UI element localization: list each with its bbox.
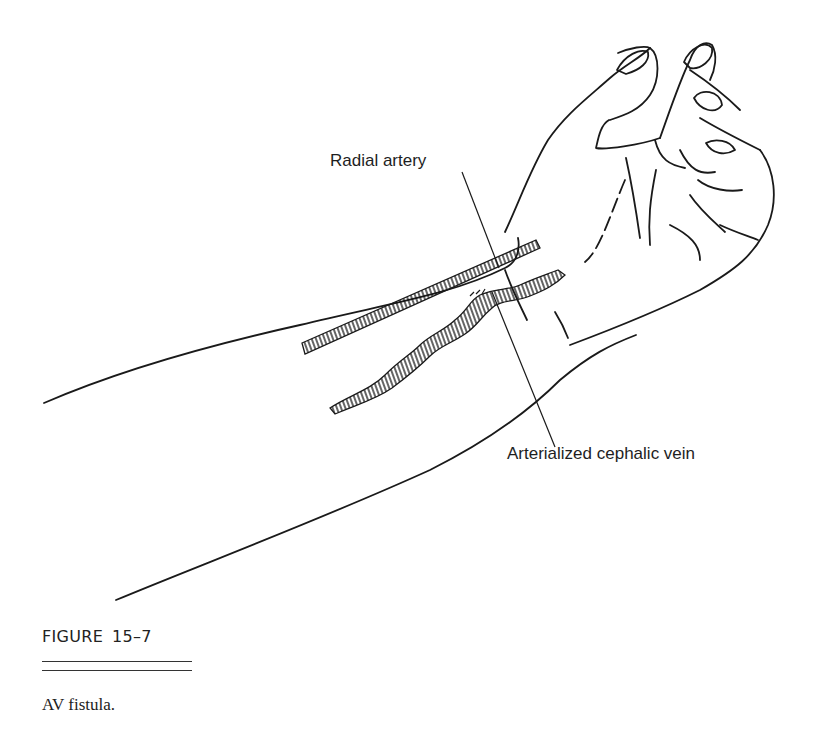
- figure-number-value: 15–7: [112, 627, 152, 646]
- caption-rule-bottom: [42, 670, 192, 671]
- palm-outline: [570, 150, 774, 345]
- fingernail-3: [706, 140, 735, 153]
- cephalic-vein-vessel: [330, 270, 565, 414]
- arterialized-cephalic-vein-label: Arterialized cephalic vein: [507, 444, 695, 464]
- caption-rule-top: [42, 661, 192, 662]
- thumb-outline: [610, 47, 658, 120]
- figure-number: FIGURE15–7: [42, 627, 152, 646]
- thumb-web: [596, 120, 660, 148]
- vein-leader: [492, 292, 555, 447]
- index-finger: [660, 43, 715, 138]
- figure-prefix: FIGURE: [42, 627, 103, 646]
- forearm-lower-outline: [116, 335, 636, 600]
- hand-dorsum-outline: [505, 48, 650, 232]
- radial-artery-label: Radial artery: [330, 151, 426, 171]
- forearm-upper-outline: [44, 238, 519, 403]
- figure-caption: AV fistula.: [42, 695, 115, 715]
- radial-artery-leader: [462, 172, 499, 268]
- fingernail-2: [694, 92, 722, 111]
